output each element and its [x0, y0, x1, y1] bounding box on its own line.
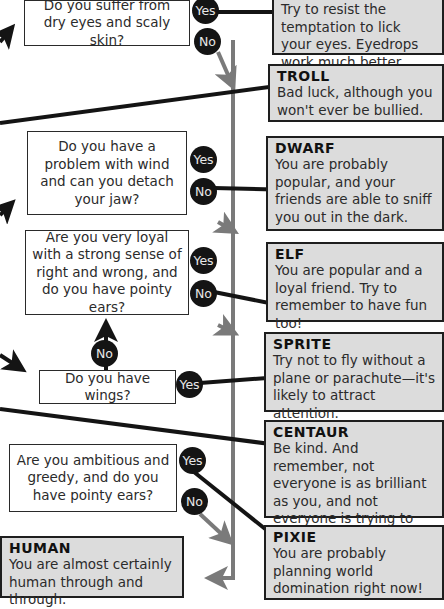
- result-sprite-title: SPRITE: [273, 336, 435, 352]
- result-human-text: You are almost certainly human through a…: [9, 556, 172, 607]
- result-troll-text: Bad luck, although you won't ever be bul…: [277, 84, 432, 118]
- question-wings: Do you have wings?: [39, 370, 176, 404]
- yes-bubble-wings: Yes: [176, 371, 203, 398]
- result-dry-eyes: Try to resist the temptation to lick you…: [272, 0, 444, 55]
- no-bubble-wings: No: [91, 340, 118, 367]
- result-pixie-text: You are probably planning world dominati…: [273, 545, 423, 596]
- question-dry-eyes: Do you suffer from dry eyes and scaly sk…: [24, 0, 190, 46]
- result-elf-text: You are popular and a loyal friend. Try …: [275, 262, 427, 331]
- result-centaur-title: CENTAUR: [273, 424, 435, 440]
- result-sprite-text: Try not to fly without a plane or parach…: [273, 352, 435, 421]
- result-troll: TROLL Bad luck, although you won't ever …: [268, 64, 444, 122]
- no-bubble-dry-eyes: No: [194, 28, 221, 55]
- yes-bubble-loyal: Yes: [190, 247, 217, 274]
- result-dwarf-text: You are probably popular, and your frien…: [275, 156, 432, 225]
- result-elf: ELF You are popular and a loyal friend. …: [266, 242, 444, 322]
- result-elf-title: ELF: [275, 246, 435, 262]
- result-dwarf-title: DWARF: [275, 140, 435, 156]
- question-loyal: Are you very loyal with a strong sense o…: [25, 230, 189, 315]
- result-dwarf: DWARF You are probably popular, and your…: [266, 136, 444, 231]
- yes-bubble-ambitious: Yes: [179, 447, 206, 474]
- result-dry-eyes-text: Try to resist the temptation to lick you…: [281, 1, 418, 70]
- result-human: HUMAN You are almost certainly human thr…: [0, 536, 184, 598]
- result-pixie: PIXIE You are probably planning world do…: [264, 525, 444, 600]
- no-bubble-wind: No: [190, 178, 217, 205]
- result-centaur: CENTAUR Be kind. And remember, not every…: [264, 420, 444, 518]
- question-wind: Do you have a problem with wind and can …: [27, 131, 187, 215]
- result-troll-title: TROLL: [277, 68, 435, 84]
- yes-bubble-wind: Yes: [190, 146, 217, 173]
- result-human-title: HUMAN: [9, 540, 175, 556]
- result-sprite: SPRITE Try not to fly without a plane or…: [264, 332, 444, 412]
- question-ambitious: Are you ambitious and greedy, and do you…: [9, 444, 177, 512]
- no-bubble-loyal: No: [190, 280, 217, 307]
- no-bubble-ambitious: No: [181, 488, 208, 515]
- result-pixie-title: PIXIE: [273, 529, 435, 545]
